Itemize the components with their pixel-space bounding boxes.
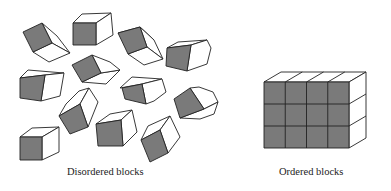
block	[174, 87, 218, 119]
block	[59, 88, 98, 134]
disordered-blocks-caption: Disordered blocks	[67, 166, 144, 177]
block	[20, 70, 64, 101]
disordered-blocks	[20, 13, 218, 162]
block	[118, 27, 163, 65]
block	[20, 127, 59, 160]
block	[141, 116, 180, 162]
blocks-diagram	[0, 0, 391, 191]
block	[73, 13, 113, 45]
ordered-blocks-caption: Ordered blocks	[279, 166, 343, 177]
block	[96, 110, 137, 146]
ordered-blocks	[264, 72, 366, 148]
block	[23, 23, 70, 62]
block	[166, 40, 211, 71]
block	[120, 77, 166, 104]
block	[72, 55, 120, 84]
